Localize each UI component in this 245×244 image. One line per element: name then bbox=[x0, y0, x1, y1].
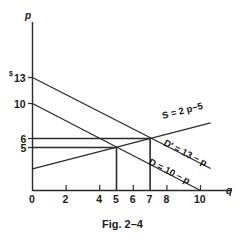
supply-demand-figure: p q $ 13 10 6 5 0 2 4 5 6 7 8 10 bbox=[0, 0, 245, 244]
y-tick-label-13: 13 bbox=[14, 72, 26, 84]
x-tick-label-7: 7 bbox=[147, 193, 153, 205]
supply-curve-label: S = 2 p−5 bbox=[161, 100, 205, 121]
y-axis-name: p bbox=[24, 10, 31, 21]
x-tick-group: 0 2 4 5 6 7 8 10 bbox=[29, 185, 206, 205]
demand-curve-label: D = 10 − p bbox=[147, 156, 192, 186]
x-tick-label-6: 6 bbox=[130, 193, 136, 205]
y-tick-label-5: 5 bbox=[21, 142, 27, 154]
x-tick-label-8: 8 bbox=[163, 193, 169, 205]
y-tick-label-10: 10 bbox=[14, 98, 26, 110]
x-axis-name: q bbox=[226, 185, 232, 196]
figure-caption: Fig. 2–4 bbox=[102, 218, 144, 230]
x-tick-label-4: 4 bbox=[96, 193, 102, 205]
x-tick-label-5: 5 bbox=[113, 193, 119, 205]
y-tick-group: $ 13 10 6 5 bbox=[9, 70, 33, 154]
x-tick-label-10: 10 bbox=[194, 193, 206, 205]
x-tick-label-2: 2 bbox=[63, 193, 69, 205]
x-tick-label-0: 0 bbox=[29, 193, 35, 205]
curve-label-group: S = 2 p−5 D′ = 13 − p D = 10 − p bbox=[147, 100, 209, 187]
dollar-sign: $ bbox=[9, 70, 13, 78]
